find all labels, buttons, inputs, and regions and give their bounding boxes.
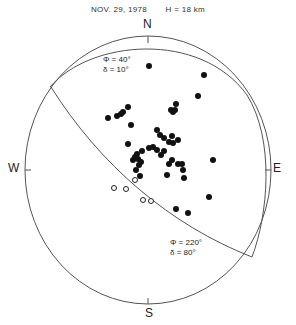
- compression-point: [137, 173, 143, 179]
- compression-point: [158, 152, 164, 158]
- compression-point: [173, 206, 179, 212]
- compression-point: [166, 161, 172, 167]
- compression-point: [146, 63, 152, 69]
- dilatation-point: [141, 198, 146, 203]
- dilatation-point: [112, 186, 117, 191]
- dilatation-point: [149, 199, 154, 204]
- dilatation-points: [112, 178, 154, 204]
- nodal-plane-2-arc: [51, 87, 252, 257]
- compression-point: [161, 135, 167, 141]
- dilatation-point: [124, 187, 129, 192]
- compression-point: [130, 157, 136, 163]
- compression-point: [175, 137, 181, 143]
- compression-point: [173, 101, 179, 107]
- compression-point: [136, 162, 142, 168]
- compression-point: [169, 133, 175, 139]
- stereonet: [0, 0, 296, 325]
- compression-point: [181, 175, 187, 181]
- nodal-plane-1-arc: [50, 49, 266, 257]
- compression-points: [105, 63, 216, 216]
- compression-point: [179, 161, 185, 167]
- compression-point: [185, 210, 191, 216]
- compression-point: [180, 167, 186, 173]
- compression-point: [164, 172, 170, 178]
- compression-point: [120, 109, 126, 115]
- compression-point: [195, 93, 201, 99]
- focal-mechanism-diagram: NOV. 29, 1978 H = 18 km N S W E Φ = 40° …: [0, 0, 296, 325]
- compression-point: [105, 115, 111, 121]
- compression-point: [154, 127, 160, 133]
- compression-point: [154, 147, 160, 153]
- compression-point: [128, 122, 134, 128]
- compression-point: [139, 148, 145, 154]
- compression-point: [133, 167, 139, 173]
- compression-point: [210, 157, 216, 163]
- compression-point: [170, 140, 176, 146]
- compression-point: [206, 194, 212, 200]
- compression-point: [172, 107, 178, 113]
- compression-point: [125, 104, 131, 110]
- compression-point: [201, 72, 207, 78]
- compression-point: [125, 141, 131, 147]
- dilatation-point: [133, 178, 138, 183]
